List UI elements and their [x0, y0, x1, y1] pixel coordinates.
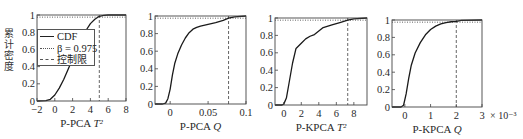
x-tick-label: 6	[334, 108, 339, 119]
y-tick-label: 1	[268, 13, 273, 24]
panel-3: 00.20.40.60.8102468P-KPCA T²	[260, 13, 367, 134]
panel-1: 00.20.40.60.81−202468P-PCA T²	[22, 10, 129, 130]
y-tick-label: 0	[148, 99, 153, 110]
x-multiplier: × 10⁻³	[490, 110, 516, 121]
x-tick-label: 0.1	[239, 107, 252, 118]
x-tick-label: 0	[168, 107, 173, 118]
legend-item-control-limit: 控制限	[40, 54, 94, 66]
x-axis-label: P-PCA T²	[60, 117, 103, 129]
x-tick-label: 1	[428, 110, 433, 121]
x-axis-label: P-PCA Q	[180, 120, 221, 132]
y-tick-label: 0.2	[377, 84, 390, 95]
dotted-line-icon	[40, 48, 54, 49]
x-tick-label: 2	[454, 110, 459, 121]
plot-canvas: 00.20.40.60.81−202468P-PCA T²00.20.40.60…	[0, 0, 523, 139]
x-tick-label: 2	[299, 108, 304, 119]
x-tick-label: 2	[70, 104, 75, 115]
x-axis-label: P-KPCA T²	[296, 121, 347, 133]
y-tick-label: 0.8	[22, 27, 35, 38]
y-tick-label: 0.4	[140, 63, 154, 74]
legend-label-control-limit: 控制限	[57, 54, 87, 66]
cdf-curve	[155, 16, 246, 104]
y-tick-label: 1	[30, 10, 35, 21]
legend-item-cdf: CDF	[40, 31, 94, 43]
y-tick-label: 0.6	[377, 49, 390, 60]
axes-frame	[275, 18, 367, 105]
legend: CDF β = 0.975 控制限	[37, 29, 95, 66]
y-tick-label: 1	[385, 15, 390, 26]
y-tick-label: 0.2	[260, 82, 273, 93]
panel-2: 00.20.40.60.8100.050.1P-PCA Q	[140, 11, 253, 133]
x-axis-label: P-KPCA Q	[412, 123, 461, 135]
legend-label-cdf: CDF	[57, 31, 77, 43]
y-tick-label: 0.8	[377, 32, 390, 43]
solid-line-icon	[40, 36, 54, 37]
cdf-figure: 00.20.40.60.81−202468P-PCA T²00.20.40.60…	[0, 0, 523, 139]
cdf-curve	[275, 18, 367, 105]
y-tick-label: 0	[385, 102, 390, 113]
y-tick-label: 0.6	[260, 47, 273, 58]
legend-item-beta: β = 0.975	[40, 43, 94, 55]
x-tick-label: 0	[402, 110, 407, 121]
dashed-line-icon	[40, 59, 54, 60]
axes-frame	[155, 16, 246, 104]
x-tick-label: 4	[316, 108, 322, 119]
x-tick-label: 8	[351, 108, 356, 119]
y-tick-label: 1	[148, 11, 153, 22]
x-tick-label: 6	[106, 104, 111, 115]
y-tick-label: 0.2	[22, 78, 35, 89]
y-tick-label: 0.2	[140, 81, 153, 92]
x-tick-label: 0	[281, 108, 286, 119]
y-tick-label: 0.4	[22, 61, 36, 72]
y-tick-label: 0.8	[140, 28, 153, 39]
x-tick-label: 0.05	[199, 107, 217, 118]
legend-label-beta: β = 0.975	[57, 43, 97, 55]
x-tick-label: 4	[88, 104, 94, 115]
y-tick-label: 0.4	[377, 67, 391, 78]
x-tick-label: 0	[52, 104, 57, 115]
x-tick-label: 8	[123, 104, 128, 115]
panel-4: 00.20.40.60.810123× 10⁻³P-KPCA Q	[377, 15, 517, 136]
y-axis-label: 累计密度	[2, 28, 16, 72]
x-tick-label: −2	[31, 104, 42, 115]
y-tick-label: 0.8	[260, 30, 273, 41]
y-tick-label: 0.4	[260, 65, 274, 76]
cdf-curve	[392, 20, 482, 107]
x-tick-label: 3	[479, 110, 484, 121]
y-tick-label: 0.6	[140, 46, 153, 57]
y-tick-label: 0	[268, 100, 273, 111]
y-tick-label: 0.6	[22, 44, 35, 55]
